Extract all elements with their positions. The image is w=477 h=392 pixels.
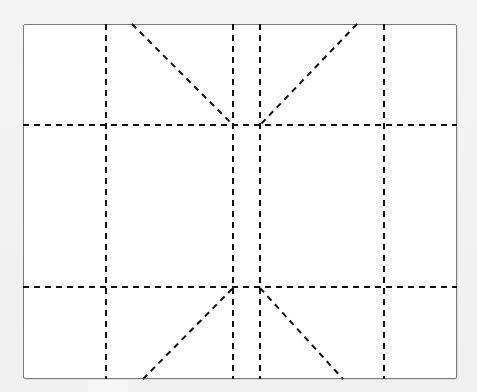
fold-line-d-bottom-left [143, 288, 233, 379]
diagram-canvas [0, 0, 477, 392]
fold-line-d-bottom-right [260, 288, 343, 379]
fold-line-d-top-right [260, 24, 357, 125]
fold-lines [0, 0, 477, 392]
fold-line-d-top-left [132, 24, 233, 125]
paper-scrap [88, 380, 128, 392]
